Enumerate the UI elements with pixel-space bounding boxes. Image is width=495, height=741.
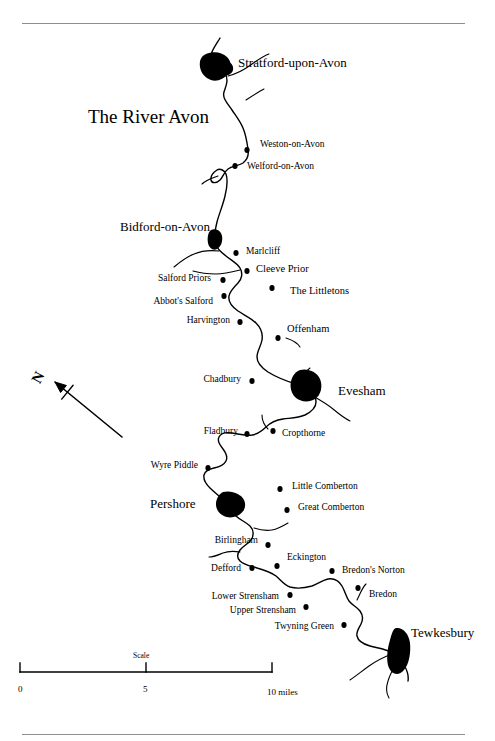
village-dot [244, 431, 249, 437]
town-label: Stratford-upon-Avon [238, 56, 347, 69]
village-label: Abbot's Salford [0, 297, 213, 307]
map-figure: The River Avon N Scale Stratford-upon-Av… [0, 0, 495, 741]
village-dot [277, 486, 282, 492]
scale-tick-label: 10 miles [267, 688, 298, 697]
village-label: The Littletons [290, 286, 349, 297]
village-label: Bredon [369, 590, 397, 600]
village-label: Offenham [287, 324, 329, 335]
village-dot [205, 465, 210, 471]
village-dot [275, 335, 280, 341]
village-label: Upper Strensham [0, 606, 296, 616]
village-label: Eckington [287, 553, 326, 563]
village-label: Chadbury [0, 375, 241, 385]
scale-tick-label: 0 [18, 685, 23, 694]
village-dot [303, 604, 308, 610]
village-dot [244, 268, 249, 274]
village-dot [244, 147, 249, 153]
village-label: Weston-on-Avon [260, 140, 325, 150]
village-label: Twyning Green [0, 622, 334, 632]
village-dot [269, 285, 274, 291]
village-label: Welford-on-Avon [247, 162, 314, 172]
scale-bar-caption: Scale [133, 652, 149, 660]
town-blob [291, 369, 322, 401]
village-dot [249, 378, 254, 384]
village-label: Wyre Piddle [0, 461, 198, 471]
river-main-channel [204, 38, 408, 681]
village-dot [265, 542, 270, 548]
town-blob [387, 628, 410, 674]
town-blob [216, 491, 245, 517]
town-label: Bidford-on-Avon [120, 220, 210, 233]
village-dot [249, 565, 254, 571]
village-label: Fladbury [0, 427, 238, 437]
village-label: Little Comberton [292, 482, 358, 492]
village-dot [220, 277, 225, 283]
village-dot [233, 250, 238, 256]
village-label: Birlingham [0, 536, 258, 546]
scale-tick-label: 5 [143, 685, 148, 694]
scale-bar-graphic [20, 663, 272, 672]
figure-title: The River Avon [88, 107, 209, 126]
town-label: Evesham [338, 384, 386, 397]
village-dot [274, 563, 279, 569]
village-dot [287, 592, 292, 598]
village-label: Marlcliff [246, 247, 280, 257]
town-label: Tewkesbury [411, 626, 474, 639]
village-dot [341, 622, 346, 628]
village-label: Harvington [0, 316, 230, 326]
village-label: Bredon's Norton [342, 566, 405, 576]
village-dot [270, 428, 275, 434]
village-label: Lower Strensham [0, 592, 279, 602]
village-label: Defford [0, 564, 241, 574]
village-label: Great Comberton [298, 503, 364, 513]
village-dot [329, 568, 334, 574]
village-dot [221, 293, 226, 299]
town-label: Pershore [150, 497, 196, 510]
village-label: Cleeve Prior [256, 264, 309, 275]
village-dot [355, 585, 360, 591]
village-dot [232, 163, 237, 169]
village-dot [284, 507, 289, 513]
village-label: Cropthorne [282, 429, 325, 439]
village-label: Salford Priors [0, 274, 211, 284]
village-dot [237, 319, 242, 325]
